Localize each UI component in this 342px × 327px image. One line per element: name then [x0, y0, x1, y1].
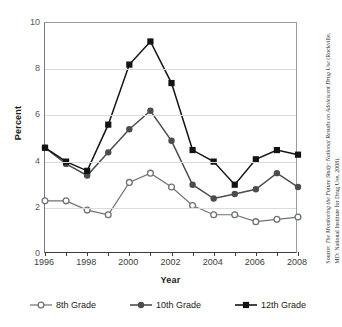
x-tick-label: 2006: [245, 257, 265, 267]
source-note: Source: The Monitoring the Future Study:…: [324, 24, 341, 264]
x-tick-mark: [129, 252, 130, 256]
x-tick-mark: [172, 252, 173, 256]
data-point: [105, 122, 111, 128]
chart-legend: 8th Grade10th Grade12th Grade: [30, 300, 306, 310]
series-3: [42, 38, 301, 187]
x-tick-mark: [256, 252, 257, 256]
legend-marker-icon: [130, 300, 152, 310]
legend-label: 12th Grade: [261, 300, 306, 310]
x-tick-mark: [235, 252, 236, 256]
data-point: [274, 147, 280, 153]
x-tick-mark: [277, 252, 278, 256]
data-point: [232, 212, 238, 218]
x-tick-label: 2008: [287, 257, 307, 267]
x-axis-title: Year: [44, 275, 297, 285]
data-point: [126, 179, 132, 185]
y-tick-label: 2: [16, 202, 40, 212]
data-point: [211, 212, 217, 218]
legend-item-12th-grade[interactable]: 12th Grade: [235, 300, 306, 310]
data-point: [232, 191, 238, 197]
gridline: [45, 208, 296, 209]
gridline: [45, 162, 296, 163]
series-1: [42, 170, 301, 224]
y-tick-label: 8: [16, 63, 40, 73]
legend-label: 8th Grade: [56, 300, 96, 310]
data-point: [126, 126, 132, 132]
x-tick-mark: [87, 252, 88, 256]
data-point: [189, 147, 195, 153]
series-line: [45, 173, 298, 222]
series-layer: [45, 23, 298, 254]
data-point: [295, 184, 301, 190]
data-point: [168, 138, 174, 144]
plot-area: [44, 22, 297, 253]
data-point: [168, 80, 174, 86]
x-tick-label: 2004: [203, 257, 223, 267]
source-prefix: Source:: [325, 244, 331, 264]
data-point: [169, 184, 175, 190]
data-point: [295, 214, 301, 220]
data-point: [84, 168, 90, 174]
x-tick-label: 1996: [34, 257, 54, 267]
data-point: [147, 108, 153, 114]
data-point: [232, 182, 238, 188]
data-point: [105, 149, 111, 155]
y-axis-tick-labels: 0246810: [16, 0, 40, 327]
x-tick-mark: [108, 252, 109, 256]
y-tick-label: 10: [16, 17, 40, 27]
data-point: [295, 152, 301, 158]
y-tick-label: 4: [16, 156, 40, 166]
data-point: [253, 186, 259, 192]
legend-item-10th-grade[interactable]: 10th Grade: [130, 300, 201, 310]
data-point: [274, 216, 280, 222]
x-tick-label: 1998: [76, 257, 96, 267]
legend-marker-icon: [235, 300, 257, 310]
legend-marker-icon: [30, 300, 52, 310]
data-point: [105, 212, 111, 218]
x-tick-mark: [193, 252, 194, 256]
legend-item-8th-grade[interactable]: 8th Grade: [30, 300, 96, 310]
x-tick-mark: [214, 252, 215, 256]
data-point: [147, 38, 153, 44]
x-tick-mark: [298, 252, 299, 256]
gridline: [45, 69, 296, 70]
gridline: [45, 115, 296, 116]
data-point: [210, 195, 216, 201]
data-point: [189, 182, 195, 188]
data-point: [42, 145, 48, 151]
x-tick-label: 2002: [160, 257, 180, 267]
data-point: [42, 198, 48, 204]
x-tick-mark: [45, 252, 46, 256]
x-tick-mark: [150, 252, 151, 256]
series-line: [45, 41, 298, 184]
data-point: [63, 198, 69, 204]
data-point: [274, 170, 280, 176]
x-tick-label: 2000: [118, 257, 138, 267]
source-title: The Monitoring the Future Study: Nationa…: [325, 61, 331, 244]
data-point: [148, 170, 154, 176]
y-tick-label: 6: [16, 109, 40, 119]
data-point: [253, 219, 259, 225]
data-point: [126, 61, 132, 67]
legend-label: 10th Grade: [156, 300, 201, 310]
x-tick-mark: [66, 252, 67, 256]
